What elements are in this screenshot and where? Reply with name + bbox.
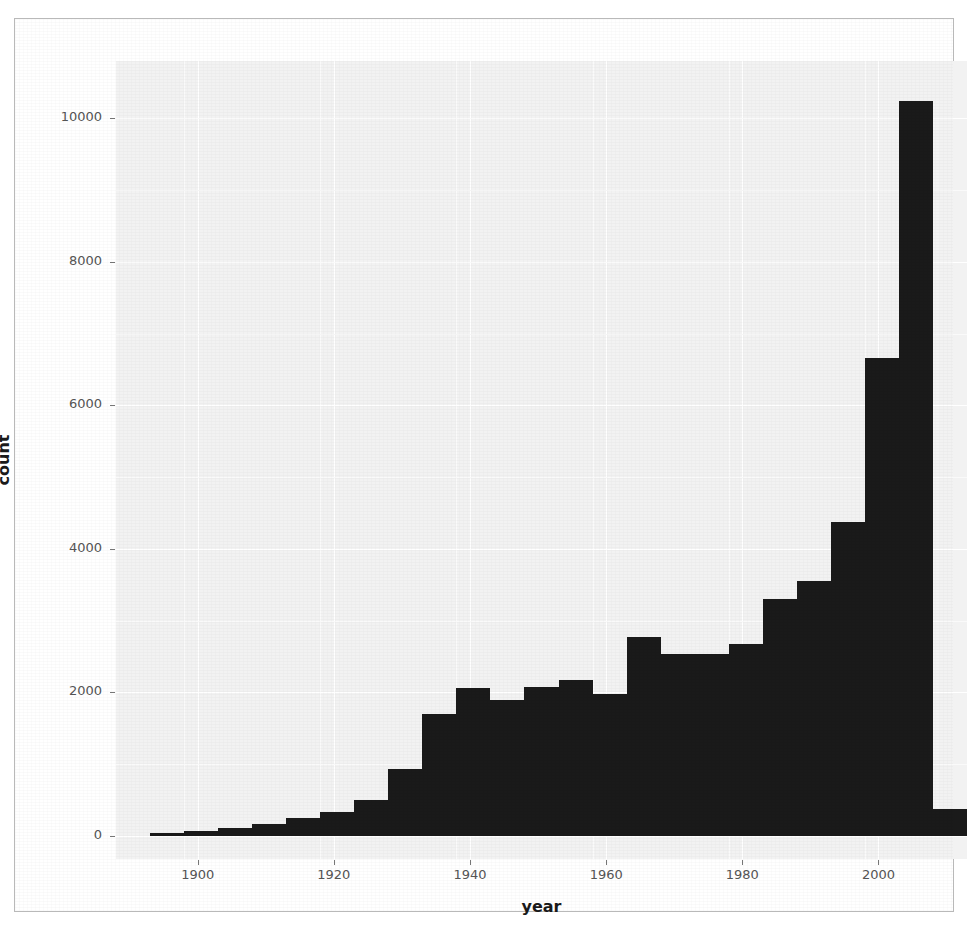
histogram-bar (559, 680, 593, 836)
y-axis-tick-label: 0 (15, 827, 102, 842)
gridline-vertical (198, 61, 199, 859)
gridline-vertical-minor (184, 61, 185, 859)
x-axis-tick-label: 1900 (181, 867, 214, 882)
histogram-bar (763, 599, 797, 836)
gridline-horizontal (116, 118, 967, 119)
gridline-horizontal-minor (116, 190, 967, 191)
x-axis-tick-mark (334, 860, 335, 865)
x-axis-tick-label: 1960 (590, 867, 623, 882)
histogram-bar (524, 687, 558, 836)
y-axis-tick-mark (110, 549, 115, 550)
x-axis-tick-label: 2000 (862, 867, 895, 882)
histogram-bar (286, 818, 320, 836)
gridline-horizontal-minor (116, 334, 967, 335)
chart-panel (116, 61, 967, 859)
histogram-bar (490, 700, 524, 836)
histogram-bar (933, 809, 967, 836)
gridline-horizontal-minor (116, 477, 967, 478)
y-axis-tick-label: 10000 (15, 109, 102, 124)
x-axis-tick-label: 1980 (726, 867, 759, 882)
histogram-bar (150, 833, 184, 836)
histogram-bar (593, 694, 627, 836)
histogram-bar (661, 654, 695, 836)
x-axis-tick-mark (742, 860, 743, 865)
histogram-bar (456, 688, 490, 836)
histogram-bar (184, 831, 218, 836)
x-axis-tick-mark (878, 860, 879, 865)
histogram-bar (320, 812, 354, 836)
gridline-horizontal (116, 405, 967, 406)
x-axis-tick-mark (198, 860, 199, 865)
x-axis-tick-label: 1940 (453, 867, 486, 882)
histogram-bar (729, 644, 763, 836)
y-axis-title: count (0, 435, 13, 486)
y-axis-tick-label: 4000 (15, 540, 102, 555)
y-axis-tick-mark (110, 836, 115, 837)
histogram-bar (865, 358, 899, 836)
histogram-bar (354, 800, 388, 836)
x-axis-tick-mark (470, 860, 471, 865)
gridline-vertical-minor (320, 61, 321, 859)
y-axis-tick-label: 8000 (15, 253, 102, 268)
histogram-bar (422, 714, 456, 836)
y-axis-tick-mark (110, 118, 115, 119)
histogram-bar (831, 522, 865, 836)
histogram-bar (388, 769, 422, 836)
gridline-horizontal (116, 836, 967, 837)
x-axis-tick-label: 1920 (317, 867, 350, 882)
figure-frame: 0200040006000800010000190019201940196019… (14, 18, 954, 912)
gridline-vertical (334, 61, 335, 859)
histogram-bar (218, 828, 252, 836)
y-axis-tick-label: 2000 (15, 683, 102, 698)
x-axis-tick-mark (606, 860, 607, 865)
histogram-bar (695, 654, 729, 836)
histogram-bar (252, 824, 286, 836)
gridline-horizontal (116, 262, 967, 263)
histogram-bar (797, 581, 831, 836)
y-axis-tick-label: 6000 (15, 396, 102, 411)
y-axis-tick-mark (110, 405, 115, 406)
y-axis-tick-mark (110, 692, 115, 693)
histogram-bar (627, 637, 661, 836)
y-axis-tick-mark (110, 262, 115, 263)
histogram-bar (899, 101, 933, 836)
x-axis-title: year (116, 897, 967, 916)
